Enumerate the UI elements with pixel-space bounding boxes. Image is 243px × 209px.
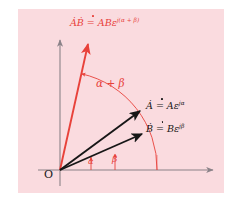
vector-ab-product [60, 44, 88, 170]
phasor-diagram-svg [0, 0, 243, 209]
figure-page: ȦḂ = ABεj(α + β) Ȧ = Aεjα Ḃ = Bεjβ α… [0, 0, 243, 209]
